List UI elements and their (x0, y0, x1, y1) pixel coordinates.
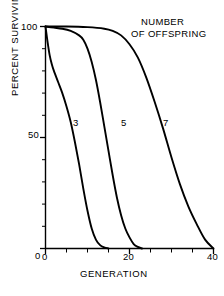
x-tick-label-0: 0 (42, 251, 47, 262)
legend-title-line-2: OF OFFSPRING (131, 28, 206, 39)
series-label-5: 5 (121, 117, 126, 128)
series-label-7: 7 (163, 117, 168, 128)
x-tick-label-20: 20 (123, 251, 134, 262)
curve-5 (46, 27, 143, 249)
curve-3 (46, 27, 109, 249)
y-tick-label-0: 0 (35, 250, 40, 261)
axis-lines (45, 26, 214, 249)
survival-curve-chart: PERCENT SURVIVING GENERATION 100 50 0 0 … (0, 0, 224, 296)
curve-7 (46, 26, 214, 248)
series-label-3: 3 (73, 117, 78, 128)
legend-title-line-1: NUMBER (141, 16, 184, 27)
y-axis-major-ticks (40, 27, 46, 249)
data-curves (46, 26, 214, 248)
x-axis-title: GENERATION (80, 268, 148, 279)
plot-area (0, 0, 224, 296)
y-tick-label-100: 100 (21, 21, 37, 32)
x-tick-label-40: 40 (207, 251, 218, 262)
y-tick-label-50: 50 (28, 129, 39, 140)
y-axis-title: PERCENT SURVIVING (9, 0, 20, 96)
